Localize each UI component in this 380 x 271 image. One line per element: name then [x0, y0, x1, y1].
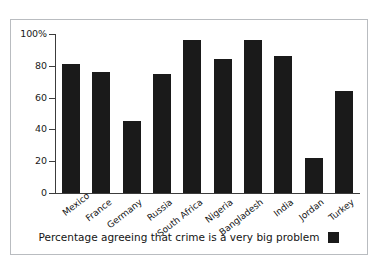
y-axis-tick [49, 193, 56, 194]
bar [214, 59, 232, 193]
y-axis-tick-label: 20 [11, 155, 47, 166]
chart-frame: 020406080100% MexicoFranceGermanyRussiaS… [10, 19, 368, 255]
y-axis-tick-labels: 020406080100% [11, 20, 47, 254]
chart-legend: Percentage agreeing that crime is a very… [11, 229, 367, 245]
bar [92, 72, 110, 193]
y-axis-tick-label: 0 [11, 187, 47, 198]
bar [62, 64, 80, 193]
x-axis-label: Mexico [60, 197, 83, 218]
legend-label: Percentage agreeing that crime is a very… [39, 231, 320, 243]
bar [305, 158, 323, 193]
plot-area [56, 34, 359, 193]
y-axis-tick [49, 98, 56, 99]
y-axis-tick-label: 60 [11, 92, 47, 103]
legend-swatch-icon [328, 232, 339, 243]
y-axis-tick [49, 34, 56, 35]
x-axis-line [55, 193, 360, 194]
bar [335, 91, 353, 193]
y-axis-tick-label: 80 [11, 60, 47, 71]
y-axis-tick-label: 100% [11, 28, 47, 39]
y-axis-tick-label: 40 [11, 123, 47, 134]
y-axis-line [55, 34, 56, 194]
bar [123, 121, 141, 193]
bar [244, 40, 262, 193]
y-axis-tick [49, 66, 56, 67]
bar [183, 40, 201, 193]
bar [274, 56, 292, 193]
y-axis-tick [49, 161, 56, 162]
bar [153, 74, 171, 193]
y-axis-tick [49, 129, 56, 130]
